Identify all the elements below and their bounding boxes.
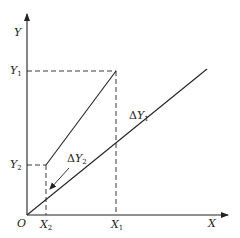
y-axis-label: Y: [14, 27, 21, 38]
origin-label: O: [17, 218, 26, 229]
x2-base: X: [40, 218, 48, 231]
x1-sub: 1: [119, 224, 123, 232]
baseline-line: [27, 69, 207, 215]
delta-y2-sub: 2: [82, 158, 86, 166]
delta-y1-label: ΔY1: [129, 110, 149, 123]
delta-y1-symbol: Δ: [129, 109, 137, 122]
y2-label: Y2: [10, 159, 22, 172]
delta-y2-arrow: [50, 168, 69, 189]
x2-label: X2: [40, 219, 52, 232]
x1-base: X: [111, 218, 119, 231]
delta-y2-symbol: Δ: [67, 152, 75, 165]
diagram-canvas: [0, 0, 240, 238]
delta-y2-label: ΔY2: [67, 153, 87, 166]
y1-sub: 1: [17, 70, 21, 78]
y1-label: Y1: [10, 65, 22, 78]
y2-sub: 2: [17, 164, 21, 172]
x1-label: X1: [111, 219, 123, 232]
x-axis-label: X: [208, 218, 216, 229]
delta-y1-sub: 1: [144, 115, 148, 123]
x2-sub: 2: [48, 224, 52, 232]
